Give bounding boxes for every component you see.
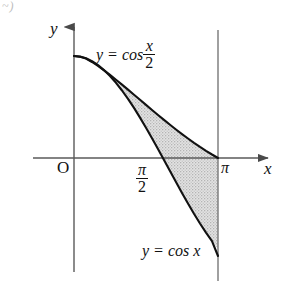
fraction-pi-over-2: π 2 <box>136 162 148 196</box>
curve-label-cos-x: y = cos x <box>142 243 200 259</box>
fraction-numerator: x <box>143 38 155 55</box>
shaded-area-between-curves <box>74 56 218 256</box>
origin-label: O <box>57 159 69 176</box>
figure-container: ~) y x O π 2 π y = cos x 2 y = cos x <box>0 0 286 291</box>
fraction-denominator: 2 <box>143 55 155 71</box>
x-axis-label: x <box>264 160 272 177</box>
curve-label-top-text: y = cos <box>96 46 143 63</box>
x-tick-label-pi-over-2: π 2 <box>136 162 148 196</box>
fraction-denominator: 2 <box>136 179 148 195</box>
curve-label-cos-x-over-2: y = cos x 2 <box>96 38 155 72</box>
cropped-page-artifact: ~) <box>2 0 15 12</box>
y-axis-label: y <box>50 20 58 37</box>
fraction-x-over-2: x 2 <box>143 38 155 72</box>
x-tick-label-pi: π <box>221 160 229 176</box>
fraction-numerator: π <box>136 162 148 179</box>
